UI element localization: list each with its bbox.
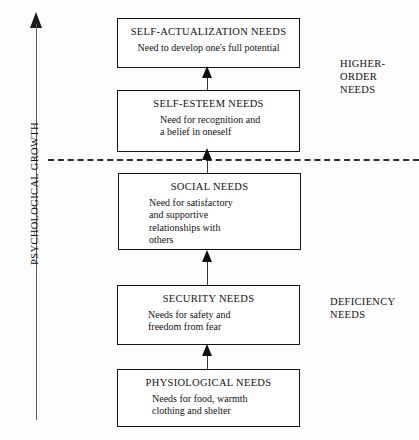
connector-arrow-icon-social-to-esteem xyxy=(202,148,212,160)
side-label-higher-order-needs: HIGHER- ORDER NEEDS xyxy=(340,58,385,96)
need-box-social: SOCIAL NEEDS Need for satisfactory and s… xyxy=(118,173,301,250)
need-title-self-esteem: SELF-ESTEEM NEEDS xyxy=(118,98,299,109)
figure-caption xyxy=(60,430,360,440)
need-title-physiological: PHYSIOLOGICAL NEEDS xyxy=(118,377,299,388)
need-box-physiological: PHYSIOLOGICAL NEEDS Needs for food, warm… xyxy=(117,369,300,427)
connector-arrow-icon-esteem-to-actualization xyxy=(202,66,212,78)
connector-arrow-icon-security-to-social xyxy=(202,250,212,262)
need-title-social: SOCIAL NEEDS xyxy=(119,181,300,192)
needs-divider-dashed-line xyxy=(48,159,419,161)
need-description-self-actualization: Need to develop one's full potential xyxy=(118,42,299,54)
psychological-growth-label: PSYCHOLOGICAL GROWTH xyxy=(29,94,40,294)
connector-arrow-icon-physiological-to-security xyxy=(202,344,212,356)
need-description-self-esteem: Need for recognition and a belief in one… xyxy=(118,114,299,139)
maslow-hierarchy-diagram: PSYCHOLOGICAL GROWTH SELF-ACTUALIZATION … xyxy=(0,0,419,440)
need-title-security: SECURITY NEEDS xyxy=(118,293,299,304)
need-title-self-actualization: SELF-ACTUALIZATION NEEDS xyxy=(118,26,299,37)
need-box-self-actualization: SELF-ACTUALIZATION NEEDS Need to develop… xyxy=(117,18,300,68)
side-label-deficiency-needs: DEFICIENCY NEEDS xyxy=(330,296,395,322)
need-box-security: SECURITY NEEDS Needs for safety and free… xyxy=(117,285,300,345)
need-box-self-esteem: SELF-ESTEEM NEEDS Need for recognition a… xyxy=(117,90,300,152)
need-description-security: Needs for safety and freedom from fear xyxy=(118,309,299,334)
need-description-social: Need for satisfactory and supportive rel… xyxy=(119,197,300,247)
need-description-physiological: Needs for food, warmth clothing and shel… xyxy=(118,393,299,418)
